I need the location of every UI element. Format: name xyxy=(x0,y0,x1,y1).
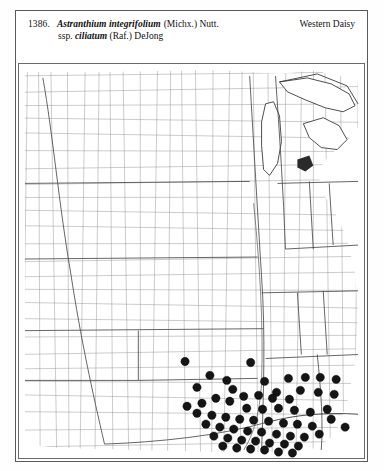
occurrence-dot xyxy=(193,409,201,417)
occurrence-dot xyxy=(206,371,214,379)
occurrence-dot xyxy=(181,357,189,365)
occurrence-dot xyxy=(290,406,298,414)
occurrence-dot xyxy=(274,404,282,412)
occurrence-dot xyxy=(251,437,259,445)
occurrence-dot xyxy=(230,425,238,433)
occurrence-dot xyxy=(212,394,220,402)
caption-line-primary: 1386. Astranthium integrifolium (Michx.)… xyxy=(28,19,357,29)
occurrence-dot xyxy=(296,386,304,394)
distribution-map xyxy=(18,63,365,459)
occurrence-dot xyxy=(306,408,314,416)
occurrence-dot xyxy=(226,397,234,405)
occurrence-dot xyxy=(236,415,244,423)
occurrence-dot xyxy=(224,434,232,442)
occurrence-dot xyxy=(210,432,218,440)
taxon-name: Astranthium integrifolium xyxy=(57,19,161,29)
occurrence-dot xyxy=(327,415,335,423)
occurrence-dot xyxy=(246,358,254,366)
occurrence-dot xyxy=(332,375,340,383)
occurrence-dot xyxy=(219,442,227,450)
common-name: Western Daisy xyxy=(300,19,357,29)
occurrence-dot xyxy=(202,420,210,428)
occurrence-dot xyxy=(240,392,248,400)
occurrence-dot xyxy=(257,428,265,436)
occurrence-dots xyxy=(181,357,349,457)
map-canvas xyxy=(19,64,364,458)
plate-page: 1386. Astranthium integrifolium (Michx.)… xyxy=(0,0,384,471)
occurrence-dot xyxy=(300,433,308,441)
occurrence-dot xyxy=(243,404,251,412)
plate-caption: 1386. Astranthium integrifolium (Michx.)… xyxy=(16,11,367,61)
occurrence-dot xyxy=(294,442,302,450)
occurrence-dot xyxy=(265,439,273,447)
occurrence-dot xyxy=(243,427,251,435)
occurrence-dot xyxy=(268,394,276,402)
subspecies-authority: (Raf.) DeJong xyxy=(109,31,163,41)
occurrence-dot xyxy=(285,395,293,403)
subspecies-rank-label: ssp. xyxy=(58,31,73,41)
occurrence-dot xyxy=(316,373,324,381)
occurrence-dot xyxy=(193,383,201,391)
occurrence-dot xyxy=(341,423,349,431)
occurrence-dot xyxy=(315,430,323,438)
occurrence-dot xyxy=(246,445,254,453)
occurrence-dot xyxy=(249,416,257,424)
occurrence-dot xyxy=(216,423,224,431)
occurrence-dot xyxy=(238,436,246,444)
occurrence-dot xyxy=(264,417,272,425)
occurrence-dot xyxy=(272,430,280,438)
occurrence-dot xyxy=(330,390,338,398)
plate-frame: 1386. Astranthium integrifolium (Michx.)… xyxy=(15,10,368,462)
occurrence-dot xyxy=(301,373,309,381)
occurrence-dot xyxy=(208,411,216,419)
occurrence-dot xyxy=(323,405,331,413)
occurrence-dot xyxy=(279,419,287,427)
caption-line-subspecies: ssp. ciliatum (Raf.) DeJong xyxy=(58,31,357,41)
occurrence-dot xyxy=(260,446,268,454)
occurrence-dot xyxy=(258,405,266,413)
taxon-authority: (Michx.) Nutt. xyxy=(164,19,219,29)
occurrence-dot xyxy=(293,420,301,428)
occurrence-dot xyxy=(288,449,296,457)
occurrence-dot xyxy=(233,444,241,452)
occurrence-dot xyxy=(254,391,262,399)
occurrence-dot xyxy=(308,422,316,430)
occurrence-dot xyxy=(286,432,294,440)
occurrence-dot xyxy=(198,399,206,407)
occurrence-dot xyxy=(223,376,231,384)
occurrence-dot xyxy=(229,385,237,393)
occurrence-dot xyxy=(274,448,282,456)
occurrence-dot xyxy=(260,377,268,385)
occurrence-dot xyxy=(280,440,288,448)
occurrence-dot xyxy=(284,374,292,382)
plate-number: 1386. xyxy=(28,19,50,29)
subspecies-epithet: ciliatum xyxy=(75,31,107,41)
occurrence-dot xyxy=(183,402,191,410)
occurrence-dot xyxy=(314,388,322,396)
occurrence-dot xyxy=(222,413,230,421)
